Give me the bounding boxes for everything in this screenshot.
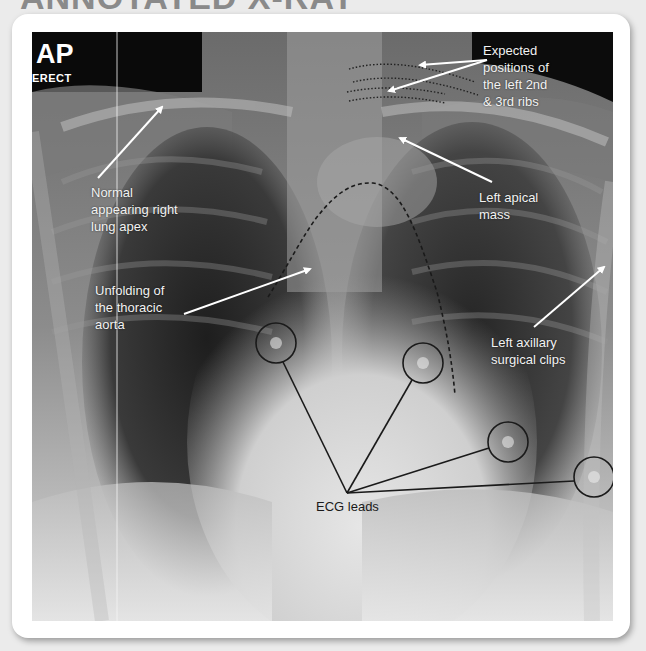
right-apex-annotation: Normal appearing right lung apex [91, 184, 178, 235]
position-marker: ERECT [32, 72, 72, 84]
aorta-annotation: Unfolding of the thoracic aorta [95, 282, 164, 333]
chest-xray-image: AP ERECT Expected positions of the left … [32, 32, 613, 621]
axillary-clips-annotation: Left axillary surgical clips [491, 334, 565, 368]
projection-marker: AP [36, 40, 74, 68]
ribs-annotation: Expected positions of the left 2nd & 3rd… [483, 42, 549, 110]
ecg-leads-annotation: ECG leads [316, 498, 379, 515]
apical-mass-annotation: Left apical mass [479, 189, 538, 223]
